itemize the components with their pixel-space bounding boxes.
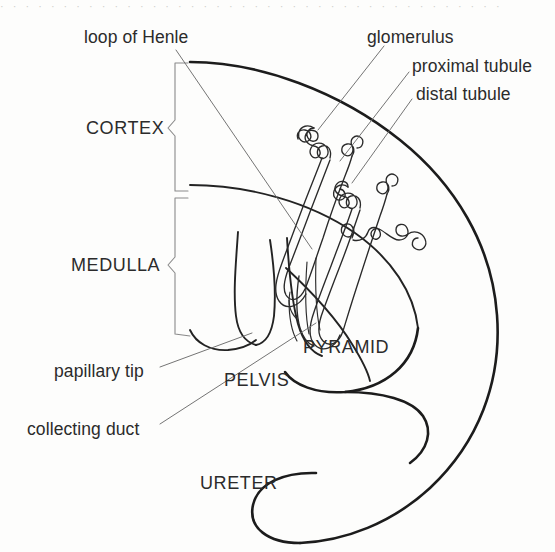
- label-pyramid: PYRAMID: [303, 338, 389, 356]
- collecting-duct-streak-1: [306, 262, 309, 334]
- nephron-1-loop-outer-wall: [276, 158, 322, 307]
- label-collecting-duct: collecting duct: [27, 421, 139, 439]
- label-papillary-tip: papillary tip: [54, 363, 144, 381]
- kidney-diagram: · · · · · · · · · · · · · · · · · · · · …: [0, 0, 555, 552]
- label-cortex: CORTEX: [86, 119, 164, 137]
- collecting-duct-streak-2: [316, 258, 320, 330]
- nephron-2-distal-tubule: [377, 174, 398, 194]
- nephron-2-loop-outer-wall: [310, 209, 352, 349]
- label-distal-tubule: distal tubule: [416, 86, 511, 104]
- label-proximal-tubule: proximal tubule: [412, 58, 532, 76]
- label-ureter: URETER: [200, 474, 278, 492]
- medulla-bracket: [168, 198, 190, 336]
- label-pelvis: PELVIS: [224, 371, 289, 389]
- papilla-left-inner-outline: [256, 240, 275, 345]
- renal-sinus-lower-outline: [345, 392, 428, 463]
- kidney-drawing: [0, 0, 555, 552]
- cortex-bracket: [168, 63, 188, 191]
- kidney-capsule-outline: [190, 62, 498, 543]
- label-medulla: MEDULLA: [71, 256, 160, 274]
- papilla-left-outline: [235, 232, 256, 345]
- label-glomerulus: glomerulus: [367, 29, 454, 47]
- nephron-1-distal-tubule: [342, 136, 363, 156]
- label-loop-of-henle: loop of Henle: [84, 29, 188, 47]
- papillary-tip-leader: [160, 333, 252, 367]
- proximal-tubule-leader: [340, 72, 409, 161]
- nephron-3-tubule-tail: [408, 232, 426, 250]
